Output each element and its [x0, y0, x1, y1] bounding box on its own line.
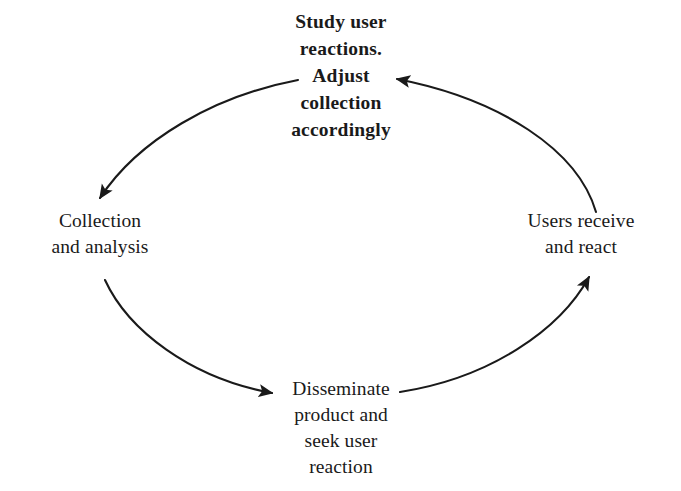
node-label-study-user-reactions: Study user reactions. Adjust collection … [241, 8, 441, 143]
node-label-collection-and-analysis: Collection and analysis [0, 208, 200, 260]
arrow-disseminate-to-users [400, 277, 589, 392]
node-label-disseminate-product: Disseminate product and seek user reacti… [241, 376, 441, 480]
cycle-diagram: Study user reactions. Adjust collection … [0, 0, 681, 491]
node-label-users-receive-and-react: Users receive and react [481, 208, 681, 260]
